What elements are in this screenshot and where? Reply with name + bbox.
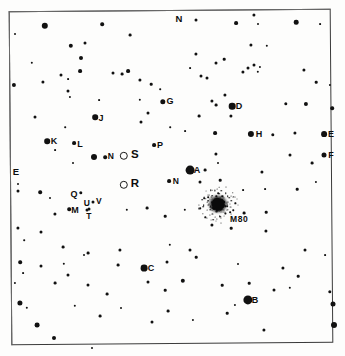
variable-star-label-r-3: R — [131, 178, 140, 190]
comparison-star-label-g: G — [166, 97, 173, 106]
variable-star-label-t-4: T — [86, 212, 91, 221]
comparison-star-label-m: M — [71, 206, 79, 215]
m80-finder-chart: ABCDEFGHJKLMPQNNSRTUVNEM80 — [0, 0, 345, 356]
comparison-star-label-h: H — [256, 130, 263, 139]
cluster-label-m80: M80 — [230, 214, 248, 224]
variable-star-label-v-6: V — [96, 197, 102, 206]
comparison-star-label-p: P — [157, 141, 163, 150]
comparison-star-label-b: B — [252, 296, 259, 305]
orientation-marker-n: N — [175, 14, 182, 24]
comparison-star-label-d: D — [236, 102, 243, 111]
variable-star-label-n-1: N — [173, 177, 179, 186]
comparison-star-label-l: L — [77, 140, 83, 149]
variable-star-label-s-2: S — [131, 149, 139, 161]
comparison-star-label-a: A — [194, 166, 201, 175]
comparison-star-label-q: Q — [70, 190, 77, 199]
star-label-layer: ABCDEFGHJKLMPQNNSRTUVNEM80 — [0, 0, 345, 356]
variable-star-label-n-0: N — [108, 152, 114, 161]
comparison-star-label-c: C — [148, 264, 155, 273]
orientation-marker-e: E — [13, 167, 20, 177]
comparison-star-label-j: J — [98, 114, 103, 123]
comparison-star-label-f: F — [328, 151, 334, 160]
variable-star-label-u-5: U — [84, 199, 90, 208]
comparison-star-label-k: K — [51, 137, 58, 146]
comparison-star-label-e: E — [328, 130, 334, 139]
